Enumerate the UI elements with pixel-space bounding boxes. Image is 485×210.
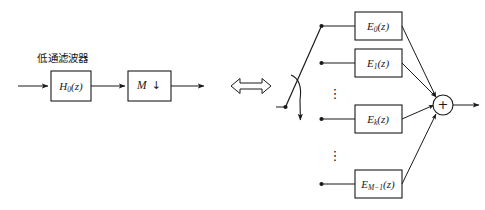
lowpass-filter-label: H0(z) <box>59 81 82 92</box>
sum-line-m-1 <box>402 114 436 184</box>
commutator-arm <box>286 27 322 107</box>
polyphase-argument-0: (z) <box>377 20 389 32</box>
polyphase-argument-m-1: (z) <box>383 178 395 190</box>
sum-line-0 <box>402 26 436 97</box>
polyphase-label-0: E0(z) <box>367 21 389 32</box>
sum-line-k <box>402 105 434 119</box>
filter-main-symbol: H <box>59 80 67 92</box>
left-signal-path <box>18 71 204 101</box>
polyphase-main-symbol-k: E <box>367 113 374 125</box>
polyphase-label-k: Ek(z) <box>367 114 389 125</box>
polyphase-label-1: E1(z) <box>367 58 389 69</box>
rotation-arc <box>291 75 301 100</box>
polyphase-argument-1: (z) <box>377 57 389 69</box>
polyphase-main-symbol-1: E <box>367 57 374 69</box>
right-signal-path <box>276 12 479 198</box>
equivalence-arrow <box>231 79 271 94</box>
polyphase-argument-k: (z) <box>377 113 389 125</box>
sum-line-1 <box>402 63 436 97</box>
lowpass-filter-annotation: 低通滤波器 <box>37 53 89 64</box>
branch-ellipsis-lower: ⋮ <box>329 149 342 162</box>
summing-junction-plus-symbol: + <box>438 98 449 111</box>
polyphase-subscript-1: 1 <box>374 62 378 71</box>
decimator-label: M↓ <box>137 80 161 92</box>
decimator-down-arrow-glyph: ↓ <box>152 79 161 92</box>
branch-ellipsis-upper: ⋮ <box>329 87 342 100</box>
polyphase-subscript-m-1: M−1 <box>368 183 383 192</box>
diagram-canvas <box>0 0 485 210</box>
filter-argument: (z) <box>71 80 83 92</box>
polyphase-subscript-0: 0 <box>374 25 378 34</box>
polyphase-main-symbol-0: E <box>367 20 374 32</box>
polyphase-subscript-k: k <box>374 118 377 127</box>
polyphase-main-symbol-m-1: E <box>361 178 368 190</box>
polyphase-label-m-1: EM−1(z) <box>361 179 394 190</box>
decimator-factor: M <box>137 79 147 91</box>
filter-subscript: 0 <box>67 85 71 94</box>
polyphase-decomposition-diagram: 低通滤波器 H0(z) M↓ E0(z) E1(z) Ek(z) EM−1(z)… <box>0 0 485 210</box>
